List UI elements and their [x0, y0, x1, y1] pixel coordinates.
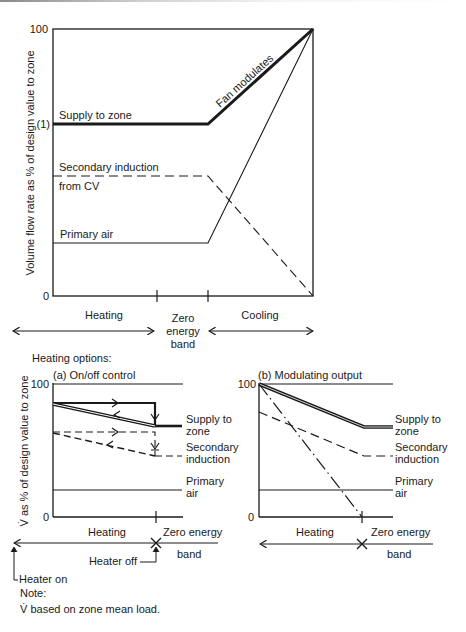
y-axis-label: Volume flow rate as % of design value to…: [24, 50, 36, 275]
panel-b-y-100: 100: [238, 378, 256, 390]
region-zero-line3: band: [171, 338, 195, 350]
heater-off-label: Heater off: [89, 555, 138, 567]
panel-a-label-supply-2: zone: [186, 425, 210, 437]
panel-a-label-primary-1: Primary: [186, 475, 224, 487]
panel-b-zero-label-2: band: [387, 548, 411, 560]
panel-a-y-axis-label: V̇ as % of design value to zone: [18, 375, 30, 526]
panel-b-label-supply-2: zone: [395, 425, 419, 437]
supply-return-slope-inner: [53, 404, 155, 426]
heater-on-pointer-icon: [11, 547, 17, 552]
label-from-cv: from CV: [59, 180, 100, 192]
region-zero-line2: energy: [166, 325, 200, 337]
y-tick-0: 0: [43, 290, 49, 302]
panel-b-label-primary-1: Primary: [395, 475, 433, 487]
heating-options-title: Heating options:: [32, 352, 112, 364]
panel-a-label-primary-2: air: [186, 487, 199, 499]
region-zero-line1: Zero: [172, 312, 195, 324]
panel-a-y-0: 0: [43, 511, 49, 523]
note-title: Note:: [20, 587, 46, 599]
panel-b-label-primary-2: air: [395, 487, 408, 499]
panel-b-label-secondary-1: Secondary: [395, 441, 448, 453]
panel-b-heating-label: Heating: [296, 526, 334, 538]
y-tick-1: (1): [37, 118, 50, 130]
secondary-return-slope: [53, 433, 155, 456]
panel-b-secondary-line: [259, 412, 393, 456]
panel-a-zero-label-1: Zero energy: [163, 526, 223, 538]
panel-a-y-100: 100: [31, 378, 49, 390]
panel-b-modulating: (b) Modulating output 100 0 Supply to zo…: [238, 369, 448, 560]
panel-b-title: (b) Modulating output: [258, 369, 362, 381]
note-text: V̇ based on zone mean load.: [20, 603, 160, 615]
panel-a-zero-label-2: band: [177, 548, 201, 560]
panel-b-y-0: 0: [248, 511, 254, 523]
label-secondary-induction: Secondary induction: [59, 161, 159, 173]
region-cooling-label: Cooling: [241, 309, 278, 321]
panel-a-on-off: (a) On/off control 100 0 V̇ as % of desi…: [11, 369, 239, 585]
label-supply-to-zone: Supply to zone: [59, 109, 132, 121]
heater-on-leader: [14, 548, 18, 580]
region-heating-label: Heating: [85, 309, 123, 321]
panel-a-heating-label: Heating: [88, 526, 126, 538]
label-fan-modulates: Fan modulates: [213, 52, 275, 110]
panel-a-label-secondary-2: induction: [186, 453, 230, 465]
panel-a-label-supply-1: Supply to: [186, 413, 232, 425]
top-chart: 100 (1) 0 Volume flow rate as % of desig…: [13, 23, 313, 350]
panel-a-title: (a) On/off control: [53, 369, 135, 381]
panel-b-zero-label-1: Zero energy: [371, 526, 431, 538]
arrow-left-icon: [107, 441, 113, 448]
heater-off-pointer-icon: [153, 547, 159, 552]
panel-b-label-supply-1: Supply to: [395, 413, 441, 425]
heater-on-label: Heater on: [19, 573, 67, 585]
label-primary-air: Primary air: [60, 228, 114, 240]
induction-unit-diagram: 100 (1) 0 Volume flow rate as % of desig…: [0, 0, 466, 632]
y-tick-100: 100: [30, 23, 48, 35]
panel-b-label-secondary-2: induction: [395, 453, 439, 465]
panel-a-label-secondary-1: Secondary: [186, 441, 239, 453]
